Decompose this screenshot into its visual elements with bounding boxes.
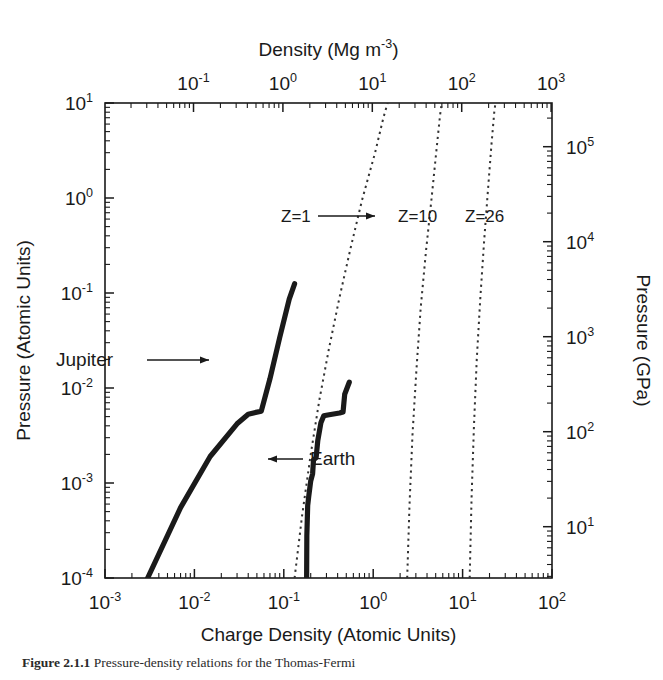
- bottom-tick-label: 10-2: [178, 590, 210, 613]
- left-tick-label: 101: [65, 91, 93, 114]
- caption-label: Figure 2.1.1: [22, 655, 90, 670]
- right-axis-title: Pressure (GPa): [633, 275, 654, 407]
- figure-caption: Figure 2.1.1 Pressure-density relations …: [22, 654, 642, 672]
- left-tick-label: 10-1: [61, 281, 93, 304]
- bottom-axis-title: Charge Density (Atomic Units): [201, 624, 457, 645]
- bottom-tick-label: 101: [449, 590, 477, 613]
- right-axis-ticks: [543, 118, 552, 576]
- top-tick-label: 102: [448, 71, 476, 94]
- left-axis-title: Pressure (Atomic Units): [13, 240, 34, 441]
- series-jupiter: [148, 284, 295, 578]
- z1-arrow-arrowhead: [366, 212, 375, 219]
- jupiter-arrow-arrowhead: [200, 356, 209, 363]
- series-z-26: [470, 103, 496, 578]
- right-tick-label: 102: [566, 420, 594, 443]
- plot-frame: [105, 103, 552, 578]
- figure-panel: 10-310-210-110010110210-1100101102103101…: [0, 0, 663, 680]
- earth-arrow-arrowhead: [268, 455, 277, 462]
- right-tick-label: 103: [566, 325, 594, 348]
- bottom-axis-ticks: [105, 569, 552, 578]
- left-axis-ticks: [105, 103, 114, 578]
- z26-label: Z=26: [465, 207, 504, 226]
- right-tick-label: 104: [566, 230, 594, 253]
- top-tick-label: 10-1: [177, 71, 209, 94]
- z1-label: Z=1: [281, 207, 311, 226]
- left-tick-label: 100: [65, 186, 93, 209]
- top-axis-ticks: [131, 103, 551, 112]
- left-tick-label: 10-4: [61, 566, 93, 589]
- bottom-tick-label: 102: [538, 590, 566, 613]
- bottom-tick-label: 10-3: [89, 590, 121, 613]
- series-earth: [307, 382, 350, 578]
- left-tick-label: 10-3: [61, 471, 93, 494]
- z10-label: Z=10: [398, 207, 437, 226]
- top-axis-title: Density (Mg m-3): [259, 37, 399, 60]
- caption-text: Pressure-density relations for the Thoma…: [94, 655, 355, 670]
- right-tick-label: 101: [566, 515, 594, 538]
- earth-label: Earth: [310, 448, 355, 469]
- left-tick-label: 10-2: [61, 376, 93, 399]
- annotations: [147, 212, 375, 462]
- top-tick-label: 101: [358, 71, 386, 94]
- top-tick-label: 103: [537, 71, 565, 94]
- series-z-10: [407, 103, 442, 578]
- top-tick-label: 100: [269, 71, 297, 94]
- jupiter-label: Jupiter: [56, 349, 114, 370]
- right-tick-label: 105: [566, 135, 594, 158]
- chart-svg: 10-310-210-110010110210-1100101102103101…: [0, 0, 663, 680]
- bottom-tick-label: 100: [359, 590, 387, 613]
- bottom-tick-label: 10-1: [268, 590, 300, 613]
